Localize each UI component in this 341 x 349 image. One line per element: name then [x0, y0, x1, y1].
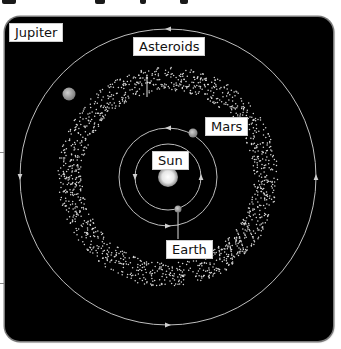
asteroid-dot — [159, 266, 161, 268]
asteroid-dot — [77, 164, 79, 166]
asteroid-dot — [121, 97, 123, 99]
asteroid-dot — [90, 103, 92, 105]
asteroid-dot — [244, 253, 246, 255]
asteroid-dot — [265, 214, 267, 216]
solar-system-diagram: Jupiter Asteroids Mars Sun Earth — [5, 17, 333, 341]
asteroid-dot — [59, 191, 61, 193]
asteroid-dot — [248, 102, 250, 104]
asteroid-dot — [76, 124, 78, 126]
asteroid-dot — [252, 143, 254, 145]
asteroid-dot — [257, 238, 259, 240]
asteroid-dot — [244, 237, 246, 239]
asteroid-dot — [178, 281, 180, 283]
asteroid-dot — [63, 144, 65, 146]
asteroid-dot — [178, 262, 180, 264]
asteroid-dot — [93, 232, 95, 234]
asteroid-dot — [261, 216, 263, 218]
asteroid-dot — [226, 254, 228, 256]
asteroid-dot — [246, 217, 248, 219]
asteroid-dot — [227, 256, 229, 258]
orbit-arrow-icon — [314, 174, 319, 180]
asteroid-dot — [277, 179, 279, 181]
asteroid-dot — [257, 201, 259, 203]
asteroid-dot — [167, 266, 169, 268]
asteroid-dot — [260, 117, 262, 119]
asteroid-dot — [66, 177, 68, 179]
asteroid-dot — [231, 257, 233, 259]
asteroid-dot — [263, 134, 265, 136]
asteroid-dot — [232, 100, 234, 102]
asteroid-dot — [62, 146, 64, 148]
asteroid-dot — [108, 103, 110, 105]
asteroid-dot — [75, 155, 77, 157]
asteroid-dot — [68, 131, 70, 133]
asteroid-dot — [170, 272, 172, 274]
asteroid-dot — [204, 78, 206, 80]
asteroid-dot — [142, 263, 144, 265]
asteroid-dot — [200, 79, 202, 81]
asteroid-dot — [134, 83, 136, 85]
asteroid-dot — [92, 131, 94, 133]
asteroid-dot — [145, 82, 147, 84]
asteroid-dot — [181, 281, 183, 283]
asteroid-dot — [134, 280, 136, 282]
asteroid-dot — [137, 258, 139, 260]
asteroid-dot — [69, 161, 71, 163]
asteroid-dot — [82, 207, 84, 209]
asteroid-dot — [219, 254, 221, 256]
asteroid-dot — [182, 271, 184, 273]
asteroid-dot — [249, 230, 251, 232]
asteroid-dot — [195, 276, 197, 278]
asteroid-dot — [82, 112, 84, 114]
asteroid-dot — [83, 149, 85, 151]
asteroid-dot — [238, 247, 240, 249]
asteroid-dot — [174, 279, 176, 281]
asteroid-dot — [87, 234, 89, 236]
asteroid-dot — [264, 180, 266, 182]
asteroid-dot — [257, 167, 259, 169]
asteroid-dot — [74, 207, 76, 209]
asteroid-dot — [194, 79, 196, 81]
asteroid-dot — [145, 279, 147, 281]
asteroid-dot — [256, 162, 258, 164]
asteroid-dot — [75, 126, 77, 128]
asteroid-dot — [198, 270, 200, 272]
asteroid-dot — [178, 79, 180, 81]
asteroid-dot — [130, 278, 132, 280]
asteroid-dot — [254, 193, 256, 195]
asteroid-dot — [165, 69, 167, 71]
asteroid-dot — [245, 138, 247, 140]
asteroid-dot — [84, 146, 86, 148]
asteroid-dot — [158, 87, 160, 89]
asteroid-dot — [212, 102, 214, 104]
asteroid-dot — [174, 285, 176, 287]
asteroid-dot — [66, 148, 68, 150]
asteroid-dot — [251, 219, 253, 221]
asteroid-dot — [194, 85, 196, 87]
asteroid-dot — [81, 144, 83, 146]
asteroid-dot — [97, 230, 99, 232]
asteroid-dot — [79, 181, 81, 183]
asteroid-dot — [260, 143, 262, 145]
asteroid-dot — [106, 253, 108, 255]
asteroid-dot — [232, 259, 234, 261]
asteroid-dot — [205, 271, 207, 273]
asteroid-dot — [116, 252, 118, 254]
asteroid-dot — [257, 171, 259, 173]
asteroid-dot — [219, 255, 221, 257]
asteroid-dot — [139, 88, 141, 90]
asteroid-dot — [175, 90, 177, 92]
asteroid-dot — [226, 269, 228, 271]
asteroid-dot — [82, 186, 84, 188]
asteroid-dot — [195, 91, 197, 93]
asteroid-dot — [152, 73, 154, 75]
asteroid-dot — [181, 79, 183, 81]
asteroid-dot — [60, 187, 62, 189]
asteroid-dot — [148, 263, 150, 265]
asteroid-dot — [171, 283, 173, 285]
asteroid-dot — [60, 167, 62, 169]
asteroid-dot — [69, 189, 71, 191]
asteroid-dot — [222, 261, 224, 263]
asteroid-dot — [213, 252, 215, 254]
asteroid-dot — [137, 90, 139, 92]
